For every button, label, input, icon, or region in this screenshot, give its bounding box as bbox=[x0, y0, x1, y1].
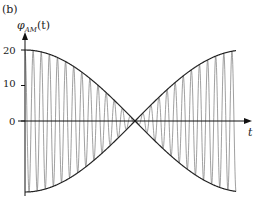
y-axis-label-arg: (t) bbox=[37, 19, 50, 32]
upper-envelope-line bbox=[25, 50, 236, 121]
y-axis-label-sub: AM bbox=[24, 26, 38, 34]
chart: (b) φAM(t) t 20 10 0 bbox=[0, 0, 261, 198]
y-tick-label-0: 0 bbox=[9, 116, 15, 127]
y-tick-label-20: 20 bbox=[3, 45, 16, 56]
x-axis-label: t bbox=[248, 126, 253, 139]
y-axis-label: φAM(t) bbox=[17, 19, 50, 34]
panel-label: (b) bbox=[2, 3, 18, 16]
x-axis-arrow bbox=[244, 118, 252, 124]
y-tick-label-10: 10 bbox=[3, 78, 16, 89]
